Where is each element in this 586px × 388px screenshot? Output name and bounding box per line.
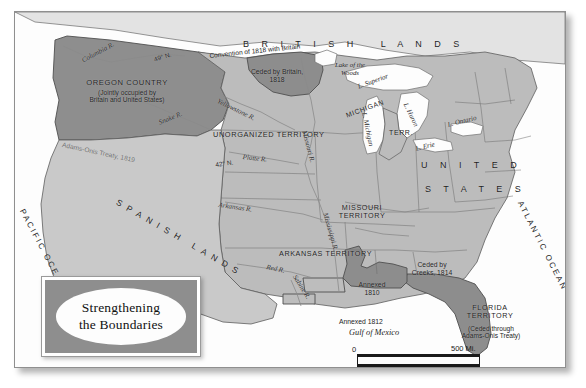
scale-zero-top: 0 — [352, 345, 356, 354]
map-title: Strengthening the Boundaries — [79, 300, 163, 333]
label-united-states-line1: U N I T E D — [421, 160, 522, 170]
label-arkansas-territory: ARKANSAS TERRITORY — [279, 250, 372, 258]
label-florida-territory-sub: (Ceded through Adams-Onis Treaty) — [445, 325, 537, 340]
scale-tick-right — [479, 354, 480, 367]
scale-bar-km-line — [357, 364, 479, 367]
label-missouri-territory: MISSOURI TERRITORY — [325, 204, 399, 220]
title-oval: Strengthening the Boundaries — [56, 288, 187, 345]
label-annexed-1812: Annexed 1812 — [339, 318, 383, 326]
map-canvas: B R I T I S H L A N D S OREGON COUNTRY (… — [15, 12, 565, 367]
label-united-states-line2: S T A T E S — [425, 184, 526, 194]
label-ceded-by-creeks: Ceded by Creeks, 1814 — [401, 261, 463, 276]
title-cartouche-inner: Strengthening the Boundaries — [45, 280, 197, 353]
scale-bar-miles-line — [357, 354, 479, 357]
scale-label-miles: 500 Mi. — [451, 344, 476, 353]
map-title-line1: Strengthening — [82, 300, 160, 315]
scale-bar: 0 0 500 Mi. 800 Km. — [351, 345, 503, 367]
map-title-line2: the Boundaries — [79, 317, 163, 332]
label-florida-territory: FLORIDA TERRITORY — [459, 304, 521, 320]
label-ceded-by-britain: Ceded by Britain, 1818 — [246, 68, 308, 83]
map-frame: B R I T I S H L A N D S OREGON COUNTRY (… — [14, 11, 566, 368]
label-michigan-territory-abbrev: TERR. — [389, 129, 413, 137]
title-cartouche: Strengthening the Boundaries — [41, 276, 201, 357]
scale-tick-left — [357, 354, 358, 367]
label-gulf-of-mexico: Gulf of Mexico — [349, 328, 399, 337]
label-oregon-country: OREGON COUNTRY — [67, 79, 187, 88]
map-screenshot: B R I T I S H L A N D S OREGON COUNTRY (… — [0, 0, 586, 388]
label-oregon-country-sub: (Jointly occupied by Britain and United … — [61, 89, 193, 104]
label-lake-of-the-woods: Lake of the Woods — [321, 61, 379, 76]
label-annexed-1810: Annexed 1810 — [349, 281, 395, 296]
